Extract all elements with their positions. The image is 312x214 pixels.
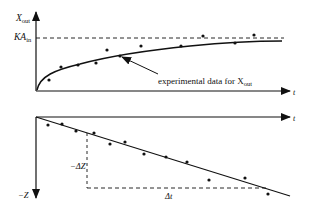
- bottom-data-points: [46, 122, 269, 195]
- top-x-axis-label: t: [293, 88, 296, 97]
- top-y-axis-label: Xout: [15, 13, 30, 24]
- top-data-points: [47, 33, 255, 81]
- asymptote-label: KAin: [13, 32, 32, 43]
- annotation-text: experimental data for Xout: [158, 76, 252, 87]
- top-chart: experimental data for Xout Xout KAin t: [13, 12, 296, 97]
- fitted-line: [36, 117, 290, 196]
- bottom-x-axis-label: t: [293, 114, 296, 123]
- delta-z-label: −ΔZ: [70, 161, 86, 171]
- annotation-arrow: [122, 57, 158, 74]
- diagram-canvas: experimental data for Xout Xout KAin t −…: [0, 0, 312, 214]
- bottom-chart: −ΔZ Δt −Z t: [18, 114, 296, 201]
- bottom-y-axis-label: −Z: [18, 190, 29, 200]
- delta-t-label: Δt: [164, 191, 173, 201]
